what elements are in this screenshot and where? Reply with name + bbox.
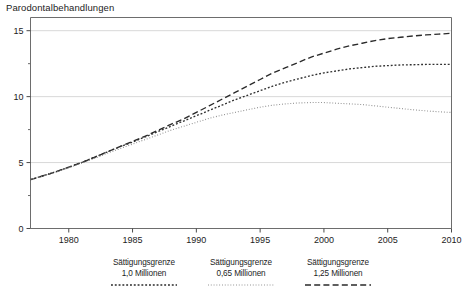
data-series-group [31,33,452,179]
x-axis-title: Jahr [233,249,250,251]
svg-text:2010: 2010 [441,235,461,245]
legend-item-3: Sättigungsgrenze1,25 Millionen [294,258,382,288]
legend-line-swatch-icon [206,282,276,288]
legend-item-label-top: Sättigungsgrenze [294,258,382,269]
svg-text:1980: 1980 [59,235,79,245]
legend-item-1: Sättigungsgrenze1,0 Millionen [100,258,188,288]
svg-text:1985: 1985 [123,235,143,245]
series-line-3 [31,103,452,180]
legend-line-swatch-icon [303,282,373,288]
svg-text:15: 15 [13,26,23,36]
chart-page: Parodontalbehandlungen 05101519801985199… [0,0,462,302]
legend-item-2: Sättigungsgrenze0,65 Millionen [197,258,285,288]
plot-frame [31,18,452,229]
svg-text:1995: 1995 [250,235,270,245]
svg-text:2000: 2000 [314,235,334,245]
legend-item-label-value: 1,0 Millionen [100,269,188,280]
legend-item-label-top: Sättigungsgrenze [100,258,188,269]
legend-line-swatch-icon [109,282,179,288]
svg-text:2005: 2005 [378,235,398,245]
legend-item-label-value: 1,25 Millionen [294,269,382,280]
series-line-1 [31,33,452,179]
svg-text:5: 5 [18,158,23,168]
svg-text:0: 0 [18,224,23,234]
gridlines [31,31,452,163]
axis-tick-labels: 0510151980198519901995200020052010 [13,26,461,245]
chart-legend: Sättigungsgrenze1,0 MillionenSättigungsg… [100,258,382,288]
chart-plot-area: 0510151980198519901995200020052010 Jahr [0,0,462,250]
axis-ticks [27,31,452,233]
legend-item-label-top: Sättigungsgrenze [197,258,285,269]
legend-item-label-value: 0,65 Millionen [197,269,285,280]
svg-text:10: 10 [13,92,23,102]
svg-text:1990: 1990 [186,235,206,245]
